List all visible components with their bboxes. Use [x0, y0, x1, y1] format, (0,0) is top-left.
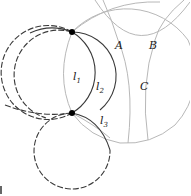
circle-l1	[1, 25, 95, 119]
label-l1: l1	[73, 70, 81, 85]
label-l3: l3	[100, 114, 109, 129]
label-l2: l2	[96, 80, 105, 95]
circle-l2-solid-arc	[72, 32, 116, 110]
bottom-intersection-point	[69, 110, 75, 116]
label-l3-sub: 3	[104, 121, 109, 129]
label-b: B	[148, 39, 157, 52]
circle-l3-dashed-arc	[34, 113, 110, 189]
label-a: A	[114, 39, 123, 52]
circle-l2	[14, 28, 116, 118]
gray-arc-l1	[64, 32, 73, 113]
top-intersection-point	[69, 29, 75, 35]
geometry-diagram: A B C l1 l2 l3	[0, 0, 190, 196]
gray-arc-right-cusp	[145, 0, 184, 140]
gray-arc-ab	[95, 0, 190, 36]
label-l2-sub: 2	[99, 87, 105, 95]
corner-mark	[0, 186, 2, 194]
gray-construction-arcs	[64, 0, 191, 143]
circle-l1-dashed-arc	[1, 25, 72, 119]
circle-l3	[5, 105, 110, 189]
label-c: C	[140, 80, 149, 93]
gray-arc-top-left	[72, 2, 160, 32]
label-l1-sub: 1	[77, 77, 81, 85]
